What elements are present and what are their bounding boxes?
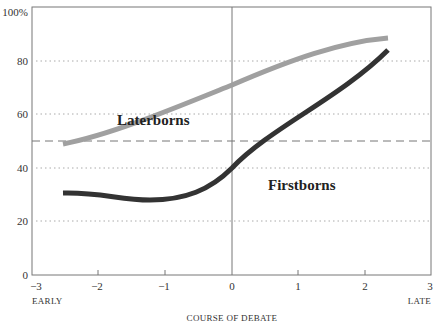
x-tick-neg1: −1 xyxy=(158,280,170,292)
y-tick-60: 60 xyxy=(17,108,29,120)
x-start-label: EARLY xyxy=(32,296,63,306)
x-end-label: LATE xyxy=(408,296,431,306)
x-tick-3: 3 xyxy=(427,280,433,292)
series-firstborns-line xyxy=(63,50,388,200)
x-tick-neg3: −3 xyxy=(30,280,42,292)
x-tick-1: 1 xyxy=(295,280,301,292)
y-tick-80: 80 xyxy=(17,55,29,67)
x-tick-2: 2 xyxy=(362,280,368,292)
y-axis-labels: 100% 80 60 40 20 0 xyxy=(2,6,28,281)
x-tick-neg2: −2 xyxy=(91,280,103,292)
label-firstborns: Firstborns xyxy=(268,177,336,193)
y-tick-40: 40 xyxy=(17,162,29,174)
y-tick-0: 0 xyxy=(23,269,29,281)
label-laterborns: Laterborns xyxy=(117,112,190,128)
x-axis-labels: −3 −2 −1 0 1 2 3 xyxy=(30,280,433,292)
x-tick-0: 0 xyxy=(229,280,235,292)
y-tick-20: 20 xyxy=(17,215,29,227)
chart: Laterborns Firstborns 100% 80 60 40 20 0… xyxy=(0,0,437,325)
x-axis-title: COURSE OF DEBATE xyxy=(187,313,278,323)
y-tick-100: 100% xyxy=(2,6,28,18)
